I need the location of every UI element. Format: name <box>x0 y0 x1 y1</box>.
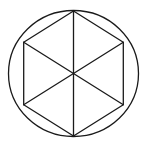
diagonals-group <box>24 11 124 136</box>
hexagon-in-circle-diagram <box>0 0 147 142</box>
